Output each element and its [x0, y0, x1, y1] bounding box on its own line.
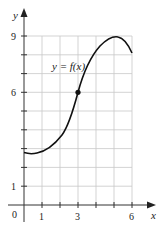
y-tick-label-9: 9	[11, 31, 16, 42]
y-tick-label-1: 1	[11, 181, 16, 192]
x-tick-label-6: 6	[129, 211, 134, 222]
function-label: y = f(x)	[51, 60, 85, 73]
origin-label: 0	[12, 209, 17, 220]
x-axis-arrow-icon	[147, 202, 156, 209]
function-graph: 0 1 3 6 1 6 9 x y y = f(x)	[0, 0, 166, 231]
x-tick-label-1: 1	[39, 211, 44, 222]
x-tick-label-3: 3	[75, 211, 80, 222]
marked-point	[75, 90, 80, 95]
y-axis-arrow-icon	[21, 8, 28, 17]
x-axis-label: x	[150, 209, 156, 221]
y-axis-label: y	[12, 9, 18, 21]
y-tick-label-6: 6	[11, 87, 16, 98]
